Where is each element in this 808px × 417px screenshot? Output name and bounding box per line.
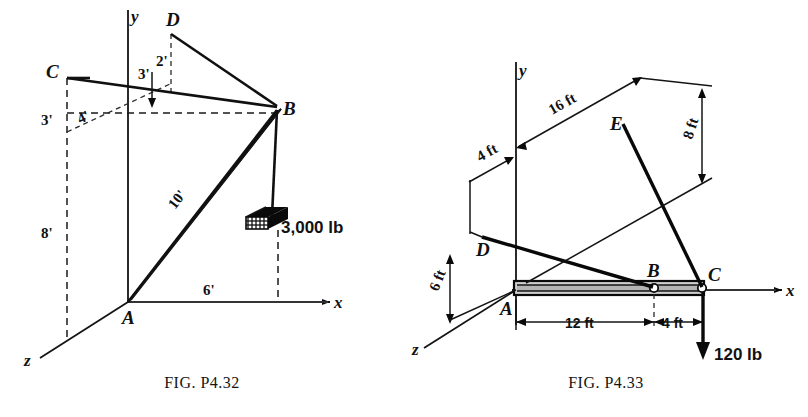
dim-16ft-label: 16 ft [546,90,579,118]
figure-p432-drawing: y x z A B C D 3' 4' 8' 3' 2' 10' 6' 3,00… [0,0,404,380]
dim-6ft-label: 6 ft [426,267,449,293]
figure-p433-drawing: y x z A B C D E 16 ft 4 ft 8 ft 6 ft 12 … [404,0,808,380]
y-axis-label: y [129,7,139,26]
applied-load-label: 120 lb [714,345,762,364]
figure-p433-caption: FIG. P4.33 [404,374,808,392]
dim-4ft-span-label: 4 ft [662,315,683,331]
load-arrow-head [696,342,710,360]
point-b-label: B [646,260,660,281]
dim-4ft-line [469,158,512,182]
dim-c-depth-label: 4' [75,107,92,126]
figure-p432: y x z A B C D 3' 4' 8' 3' 2' 10' 6' 3,00… [0,0,404,417]
dim-strut-length-label: 10' [165,187,189,212]
rope-b-to-block [272,110,277,216]
x-axis-label: x [785,281,795,300]
weight-load-label: 3,000 lb [281,218,343,237]
dim-x-span-label: 6' [203,282,215,298]
dim-12ft-arrow-left [516,318,526,326]
point-a-label: A [499,298,513,319]
dim-8ft-label: 8 ft [680,116,702,141]
dim-12ft-label: 12 ft [565,315,594,331]
dim-d-depth-label: 2' [156,53,168,69]
y-axis-label: y [517,61,527,80]
point-d-label: D [165,9,180,30]
dim-8ft-arrow-top [698,88,706,98]
dim-d-tie [470,232,482,237]
dim-4ft-offset-label: 4 ft [474,140,500,164]
dim-a-height-label: 8' [41,225,53,241]
dim-d-offset-label: 3' [138,66,150,82]
dim-8ft-ext-top [640,78,712,86]
point-e-label: E [609,113,623,134]
dim-arrow-3ft-head [148,98,156,108]
x-axis-label: x [333,293,343,312]
member-ab-edge-2 [131,109,281,300]
beam-core-band [517,285,701,291]
dim-12ft-arrow-right [644,318,654,326]
figure-pair: y x z A B C D 3' 4' 8' 3' 2' 10' 6' 3,00… [0,0,808,417]
dim-8ft-ext-bottom [526,178,712,283]
z-axis-label: z [23,351,31,370]
point-c-label: C [708,264,721,285]
member-ab-edge-1 [128,110,277,302]
dim-6ft-arrow-top [446,254,454,264]
member-cb [67,78,277,107]
point-b-label: B [282,98,296,119]
point-a-label: A [121,307,135,328]
z-axis-line [40,302,128,358]
caption-text: FIG. P4.32 [164,374,240,391]
weight-block-front [246,217,268,229]
dim-c-vertical-label: 3' [41,112,53,128]
point-c-label: C [46,61,59,82]
figure-p432-caption: FIG. P4.32 [0,374,404,392]
caption-text: FIG. P4.33 [568,374,644,391]
z-axis-label: z [411,340,419,359]
figure-p433: y x z A B C D E 16 ft 4 ft 8 ft 6 ft 12 … [404,0,808,417]
point-d-label: D [475,239,490,260]
cable-db [482,237,653,287]
